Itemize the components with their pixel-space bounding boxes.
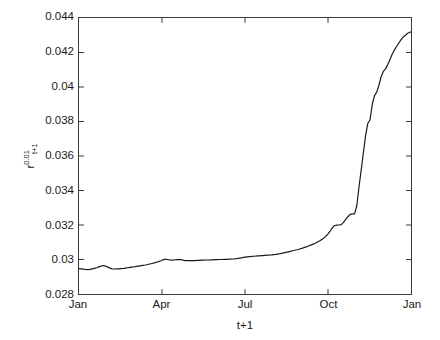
x-tick-label: Jan [403,299,422,311]
y-tick-label: 0.038 [45,116,74,128]
x-tick-label: Oct [320,299,338,311]
y-tick-label: 0.036 [45,150,74,162]
y-tick-label: 0.042 [45,46,74,58]
x-tick-label: Apr [153,299,171,311]
y-axis-label: r0.01t+1 [25,143,37,168]
figure-canvas: 0.028 0.03 0.032 0.034 0.036 0.038 0.04 … [0,0,440,340]
y-tick-label: 0.032 [45,220,74,232]
x-axis-label: t+1 [237,320,253,332]
y-tick-label: 0.044 [45,11,74,23]
data-series-layer [79,18,411,294]
y-tick-label: 0.03 [52,255,74,267]
x-tick-label: Jan [69,299,88,311]
plot-area [78,17,412,295]
data-line-series-0 [79,32,411,270]
y-axis-label-subscript: t+1 [30,143,39,154]
y-axis-label-base: r [24,165,36,169]
x-tick-label: Jul [238,299,253,311]
y-tick-label: 0.034 [45,185,74,197]
x-axis-label-wrap: t+1 [25,320,440,332]
y-tick-label: 0.04 [52,81,74,93]
